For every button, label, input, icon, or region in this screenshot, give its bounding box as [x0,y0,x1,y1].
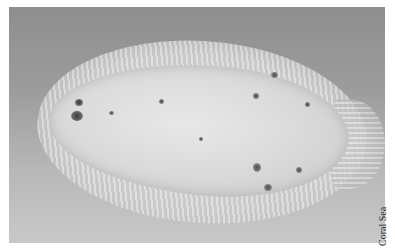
fish-spot [199,137,203,141]
fish-spot [253,93,259,99]
specimen-photo [9,7,385,243]
fish-spot [271,72,278,78]
fish-spot [264,184,272,191]
fish-spot [253,163,261,172]
fish-eye [71,111,83,121]
fish-eye [75,99,83,106]
fish-spot [305,102,310,107]
fish-spot [109,111,114,115]
fish-spot [296,167,302,173]
fish-spot [159,99,164,104]
location-caption: Coral Sea [377,207,388,246]
